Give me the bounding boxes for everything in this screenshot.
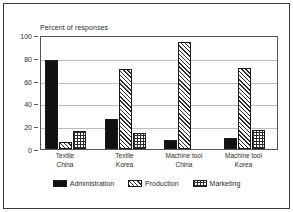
x-tick-label-line2: Korea: [115, 161, 133, 170]
x-tick-label-line1: Textile: [56, 152, 74, 159]
y-tick-label: 0: [28, 147, 32, 154]
y-axis: 020406080100: [0, 36, 38, 150]
x-tick-label: TextileKorea: [115, 152, 133, 169]
chart-figure: Percent of responses 020406080100 Textil…: [0, 0, 293, 212]
legend-swatch-admin: [53, 180, 67, 187]
y-tick-mark: [34, 150, 38, 151]
bar-admin: [45, 60, 58, 149]
bar-marketing: [73, 131, 86, 149]
y-tick-mark: [34, 104, 38, 105]
legend-item: Production: [128, 180, 178, 187]
y-tick-mark: [34, 127, 38, 128]
bar-production: [238, 68, 251, 149]
bar-admin: [105, 119, 118, 149]
legend-item: Marketing: [193, 180, 241, 187]
y-tick-mark: [34, 36, 38, 37]
x-tick-label: Machine toolKorea: [225, 152, 262, 169]
x-tick-label-line1: Machine tool: [225, 152, 262, 159]
x-axis-labels: TextileChinaTextileKoreaMachine toolChin…: [40, 152, 278, 176]
bars-layer: [41, 37, 277, 149]
bar-admin: [224, 138, 237, 149]
y-tick-mark: [34, 82, 38, 83]
x-tick-label-line2: China: [56, 161, 74, 170]
y-tick-label: 100: [20, 33, 32, 40]
x-tick-label-line1: Machine tool: [166, 152, 203, 159]
legend-label: Production: [145, 180, 178, 187]
plot-area: [40, 36, 278, 150]
x-tick-label: TextileChina: [56, 152, 74, 169]
bar-marketing: [252, 130, 265, 149]
legend-label: Marketing: [210, 180, 241, 187]
x-tick-label: Machine toolChina: [166, 152, 203, 169]
y-tick-label: 20: [24, 124, 32, 131]
chart-legend: AdministrationProductionMarketing: [0, 180, 293, 187]
legend-label: Administration: [70, 180, 114, 187]
bar-admin: [164, 140, 177, 149]
x-tick-label-line2: Korea: [225, 161, 262, 170]
x-tick-label-line1: Textile: [115, 152, 133, 159]
bar-production: [59, 142, 72, 149]
legend-swatch-production: [128, 180, 142, 187]
y-tick-label: 40: [24, 101, 32, 108]
chart-title: Percent of responses: [40, 24, 108, 31]
bar-production: [178, 42, 191, 149]
y-tick-label: 60: [24, 78, 32, 85]
legend-item: Administration: [53, 180, 114, 187]
bar-marketing: [133, 133, 146, 149]
legend-swatch-marketing: [193, 180, 207, 187]
x-tick-label-line2: China: [166, 161, 203, 170]
y-tick-mark: [34, 59, 38, 60]
y-tick-label: 80: [24, 55, 32, 62]
bar-production: [119, 69, 132, 149]
